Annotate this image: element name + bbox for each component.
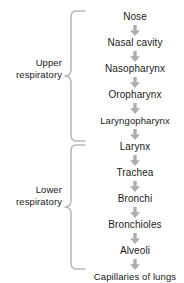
flow-node-oropharynx: Oropharynx [108, 89, 161, 101]
group-label-upper-respiratory: Upper respiratory [0, 57, 62, 80]
down-arrow-icon [129, 155, 141, 166]
group-label-lower-line2: respiratory [0, 196, 62, 208]
flow-node-alveoli: Alveoli [120, 245, 150, 257]
flow-node-larynx: Larynx [120, 141, 151, 153]
flow-node-trachea: Trachea [116, 167, 153, 179]
flow-node-nasal-cavity: Nasal cavity [107, 37, 162, 49]
flow-node-bronchi: Bronchi [118, 193, 153, 205]
flow-node-laryngopharynx: Laryngopharynx [100, 115, 170, 127]
flow-node-nasopharynx: Nasopharynx [105, 63, 165, 75]
down-arrow-icon [129, 129, 141, 140]
group-label-upper-line2: respiratory [0, 69, 62, 81]
down-arrow-icon [129, 51, 141, 62]
flow-column: Nose Nasal cavity Nasopharynx Oropharynx… [86, 0, 184, 276]
down-arrow-icon [129, 259, 141, 270]
down-arrow-icon [129, 207, 141, 218]
flow-node-nose: Nose [123, 11, 147, 23]
group-label-upper-line1: Upper [0, 57, 62, 69]
down-arrow-icon [129, 181, 141, 192]
brace-upper-icon [62, 10, 86, 142]
brace-lower-icon [62, 144, 86, 270]
down-arrow-icon [129, 77, 141, 88]
group-label-lower-line1: Lower [0, 184, 62, 196]
down-arrow-icon [129, 233, 141, 244]
flow-node-bronchioles: Bronchioles [108, 219, 161, 231]
flow-node-capillaries-of-lungs: Capillaries of lungs [94, 271, 176, 283]
brace-upper-respiratory [62, 10, 86, 142]
down-arrow-icon [129, 25, 141, 36]
group-label-lower-respiratory: Lower respiratory [0, 184, 62, 207]
down-arrow-icon [129, 103, 141, 114]
brace-lower-respiratory [62, 144, 86, 270]
